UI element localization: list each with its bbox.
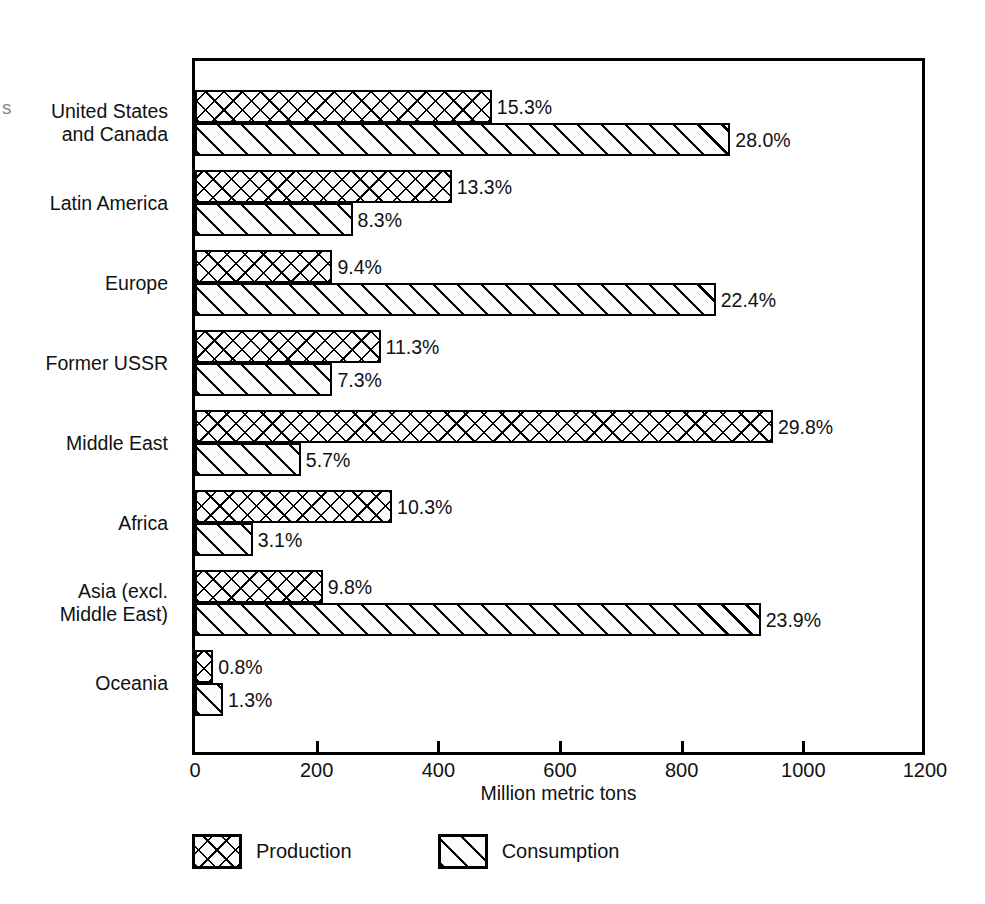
bar-production-2: 9.4% — [195, 250, 332, 283]
category-label-4: Middle East — [0, 432, 182, 455]
category-axis-labels: United States and CanadaLatin AmericaEur… — [0, 58, 182, 755]
category-label-0: United States and Canada — [0, 100, 182, 146]
bar-consumption-2: 22.4% — [195, 283, 716, 316]
x-tick-800 — [681, 741, 684, 755]
bar-value-label: 5.7% — [306, 448, 350, 471]
bar-production-1: 13.3% — [195, 170, 452, 203]
bar-production-5: 10.3% — [195, 490, 392, 523]
bar-production-4: 29.8% — [195, 410, 773, 443]
legend-label-consumption: Consumption — [502, 840, 620, 863]
category-label-7: Oceania — [0, 672, 182, 695]
bar-consumption-3: 7.3% — [195, 363, 332, 396]
bar-production-6: 9.8% — [195, 570, 323, 603]
x-tick-label-0: 0 — [189, 759, 200, 782]
x-tick-label-1000: 1000 — [781, 759, 826, 782]
bar-production-7: 0.8% — [195, 650, 213, 683]
x-tick-400 — [437, 741, 440, 755]
category-label-3: Former USSR — [0, 352, 182, 375]
bar-consumption-5: 3.1% — [195, 523, 253, 556]
bar-chart: s United States and CanadaLatin AmericaE… — [0, 0, 985, 904]
x-tick-label-600: 600 — [543, 759, 576, 782]
x-tick-label-800: 800 — [665, 759, 698, 782]
bar-production-3: 11.3% — [195, 330, 381, 363]
x-tick-1000 — [802, 741, 805, 755]
chart-legend: ProductionConsumption — [192, 826, 812, 876]
bar-value-label: 9.8% — [328, 575, 372, 598]
category-label-1: Latin America — [0, 192, 182, 215]
x-tick-label-400: 400 — [422, 759, 455, 782]
bar-consumption-6: 23.9% — [195, 603, 761, 636]
bars-layer: 15.3%28.0%13.3%8.3%9.4%22.4%11.3%7.3%29.… — [195, 58, 925, 755]
legend-swatch-consumption — [438, 834, 488, 869]
x-tick-200 — [316, 741, 319, 755]
bar-value-label: 13.3% — [457, 175, 512, 198]
x-tick-600 — [559, 741, 562, 755]
x-tick-label-1200: 1200 — [903, 759, 948, 782]
bar-consumption-7: 1.3% — [195, 683, 223, 716]
bar-value-label: 15.3% — [497, 95, 552, 118]
category-label-5: Africa — [0, 512, 182, 535]
bar-value-label: 3.1% — [258, 528, 302, 551]
legend-label-production: Production — [256, 840, 352, 863]
category-label-2: Europe — [0, 272, 182, 295]
bar-consumption-1: 8.3% — [195, 203, 353, 236]
x-tick-label-200: 200 — [300, 759, 333, 782]
bar-value-label: 0.8% — [218, 655, 262, 678]
legend-item-production: Production — [192, 834, 352, 869]
bar-value-label: 29.8% — [778, 415, 833, 438]
bar-value-label: 1.3% — [228, 688, 272, 711]
bar-value-label: 7.3% — [337, 368, 381, 391]
x-axis-title: Million metric tons — [192, 782, 925, 805]
category-label-6: Asia (excl. Middle East) — [0, 580, 182, 626]
bar-value-label: 11.3% — [386, 335, 440, 358]
bar-value-label: 10.3% — [397, 495, 452, 518]
legend-item-consumption: Consumption — [438, 834, 620, 869]
bar-value-label: 8.3% — [358, 208, 402, 231]
bar-consumption-4: 5.7% — [195, 443, 301, 476]
bar-value-label: 28.0% — [735, 128, 790, 151]
legend-swatch-production — [192, 834, 242, 869]
bar-value-label: 22.4% — [721, 288, 776, 311]
bar-value-label: 9.4% — [337, 255, 381, 278]
bar-value-label: 23.9% — [766, 608, 821, 631]
bar-consumption-0: 28.0% — [195, 123, 730, 156]
bar-production-0: 15.3% — [195, 90, 492, 123]
